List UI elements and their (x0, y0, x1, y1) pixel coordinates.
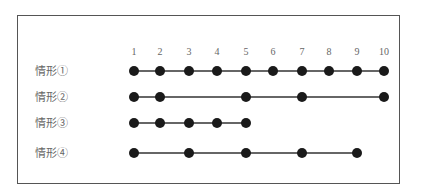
scenario-row: 情形② (35, 91, 389, 103)
point-line-diagram: 12345678910 情形①情形②情形③情形④ (0, 0, 429, 195)
point-dot (212, 118, 222, 128)
point-dot (241, 148, 251, 158)
position-tick: 5 (244, 46, 249, 57)
point-dot (324, 66, 334, 76)
point-dot (379, 92, 389, 102)
position-tick: 3 (187, 46, 192, 57)
scenario-label: 情形② (35, 91, 68, 103)
scenario-row: 情形④ (35, 147, 362, 159)
point-dot (297, 66, 307, 76)
point-dot (212, 66, 222, 76)
position-tick: 4 (215, 46, 220, 57)
point-dot (297, 148, 307, 158)
point-dot (129, 92, 139, 102)
point-dot (241, 118, 251, 128)
position-tick: 1 (132, 46, 137, 57)
position-tick: 8 (327, 46, 332, 57)
point-dot (352, 148, 362, 158)
point-dot (268, 66, 278, 76)
point-dot (129, 66, 139, 76)
scenario-label: 情形① (35, 65, 68, 77)
point-dot (129, 118, 139, 128)
point-dot (241, 66, 251, 76)
point-dot (155, 66, 165, 76)
position-tick: 6 (271, 46, 276, 57)
point-dot (184, 148, 194, 158)
position-ticks: 12345678910 (132, 46, 390, 57)
point-dot (241, 92, 251, 102)
point-dot (129, 148, 139, 158)
position-tick: 7 (300, 46, 305, 57)
scenario-label: 情形④ (35, 147, 68, 159)
point-dot (184, 66, 194, 76)
scenario-row: 情形① (35, 65, 389, 77)
scenario-label: 情形③ (35, 117, 68, 129)
point-dot (379, 66, 389, 76)
scenario-row: 情形③ (35, 117, 251, 129)
position-tick: 10 (379, 46, 389, 57)
point-dot (352, 66, 362, 76)
position-tick: 2 (158, 46, 163, 57)
position-tick: 9 (355, 46, 360, 57)
scenario-rows: 情形①情形②情形③情形④ (35, 65, 389, 159)
point-dot (155, 118, 165, 128)
point-dot (155, 92, 165, 102)
point-dot (184, 118, 194, 128)
point-dot (297, 92, 307, 102)
